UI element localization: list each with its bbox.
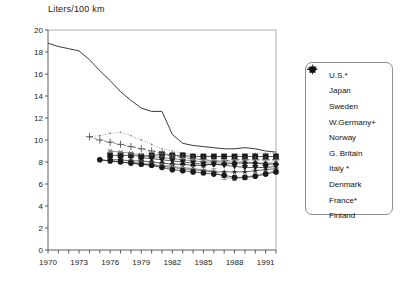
data-point-marker: [161, 148, 163, 150]
y-tick-label: 20: [34, 26, 43, 35]
data-point-marker: [211, 171, 217, 177]
x-tick-label: 1973: [70, 258, 88, 267]
data-point-marker: [159, 165, 165, 171]
data-point-marker: [252, 174, 258, 180]
data-point-marker: [107, 139, 114, 146]
y-tick-label: 4: [39, 202, 44, 211]
data-point-marker: [128, 160, 134, 166]
data-point-marker: [151, 144, 153, 146]
data-point-marker: [107, 158, 113, 164]
data-point-marker: [86, 133, 93, 140]
data-point-marker: [242, 175, 248, 181]
data-point-marker: [127, 143, 134, 150]
legend-item-label: France*: [329, 197, 357, 205]
legend-item-label: Finland: [329, 212, 355, 220]
data-point-marker: [96, 136, 103, 143]
data-point-marker: [221, 172, 227, 178]
triangle-down-marker-icon: [313, 210, 326, 223]
y-tick-label: 14: [34, 92, 43, 101]
y-tick-label: 18: [34, 48, 43, 57]
diamond-marker-icon: [313, 147, 326, 160]
legend-item-label: U.S.*: [329, 72, 348, 80]
data-point-marker: [232, 175, 238, 181]
square-marker-icon: [313, 100, 326, 113]
legend-item-label: G. Britain: [329, 150, 362, 158]
data-point-marker: [263, 171, 269, 177]
legend-item-italy[interactable]: Italy *: [306, 162, 392, 178]
x-tick-label: 1985: [195, 258, 213, 267]
data-point-marker: [172, 150, 174, 152]
series-line-u-s: [48, 43, 276, 152]
dotted-line-icon: [313, 85, 326, 98]
legend-item-finland[interactable]: Finland: [306, 208, 392, 224]
legend-item-label: Italy *: [329, 165, 349, 173]
y-tick-label: 6: [39, 180, 44, 189]
circle-marker-icon: [313, 194, 326, 207]
x-tick-label: 1976: [101, 258, 119, 267]
hbars-marker-icon: [313, 178, 326, 191]
legend-item-label: Sweden: [329, 103, 358, 111]
data-point-marker: [138, 145, 145, 152]
legend-item-label: W.Germany+: [329, 119, 376, 127]
y-tick-label: 2: [39, 224, 44, 233]
data-point-marker: [149, 163, 155, 169]
y-tick-label: 10: [34, 136, 43, 145]
asterisk-marker-icon: [313, 132, 326, 145]
y-tick-label: 16: [34, 70, 43, 79]
data-point-marker: [117, 141, 124, 148]
x-tick-label: 1979: [132, 258, 150, 267]
y-tick-label: 12: [34, 114, 43, 123]
data-point-marker: [118, 159, 124, 165]
star-marker-icon: [313, 163, 326, 176]
x-tick-label: 1988: [226, 258, 244, 267]
data-point-marker: [97, 157, 103, 163]
data-point-marker: [201, 170, 207, 176]
data-point-marker: [99, 135, 101, 137]
data-point-marker: [170, 167, 176, 173]
legend-item-label: Norway: [329, 134, 356, 142]
legend-item-france[interactable]: France*: [306, 193, 392, 209]
chart-legend: U.S.*JapanSwedenW.Germany+NorwayG. Brita…: [305, 62, 393, 215]
x-tick-label: 1991: [257, 258, 275, 267]
data-point-marker: [273, 169, 279, 175]
series-line-italy: [100, 160, 276, 172]
legend-item-w-germany[interactable]: W.Germany+: [306, 115, 392, 131]
data-point-marker: [120, 132, 122, 134]
chart-screenshot: Liters/100 km 02468101214161820197019731…: [0, 0, 402, 291]
legend-item-label: Denmark: [329, 181, 361, 189]
legend-item-label: Japan: [329, 87, 351, 95]
legend-item-japan[interactable]: Japan: [306, 84, 392, 100]
x-tick-label: 1982: [163, 258, 181, 267]
x-tick-label: 1970: [39, 258, 57, 267]
plus-marker-icon: [313, 116, 326, 129]
legend-item-denmark[interactable]: Denmark: [306, 177, 392, 193]
data-point-marker: [190, 169, 196, 175]
data-point-marker: [180, 168, 186, 174]
data-point-marker: [109, 133, 111, 135]
legend-item-g-britain[interactable]: G. Britain: [306, 146, 392, 162]
data-point-marker: [138, 161, 144, 167]
legend-item-sweden[interactable]: Sweden: [306, 99, 392, 115]
legend-item-norway[interactable]: Norway: [306, 130, 392, 146]
y-tick-label: 8: [39, 158, 44, 167]
y-tick-label: 0: [39, 246, 44, 255]
data-point-marker: [140, 139, 142, 141]
data-point-marker: [108, 149, 113, 153]
data-point-marker: [130, 135, 132, 137]
